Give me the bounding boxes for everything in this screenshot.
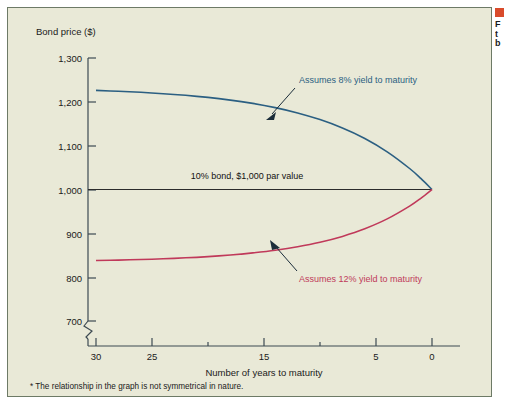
yield-12-annotation-arrow — [270, 240, 297, 271]
x-tick-label-15: 15 — [259, 351, 270, 362]
footnote-text: * The relationship in the graph is not s… — [30, 382, 243, 391]
y-tick-label-700: 700 — [66, 316, 82, 327]
y-tick-label-1200: 1,200 — [58, 97, 82, 108]
bond-price-chart: Bond price ($) 1,300 1,200 1,100 1,000 9… — [8, 8, 490, 395]
x-tick-label-25: 25 — [147, 351, 158, 362]
y-tick-label-900: 900 — [66, 229, 82, 240]
y-tick-label-1000: 1,000 — [58, 185, 82, 196]
x-axis-title: Number of years to maturity — [205, 367, 322, 378]
y-tick-label-1100: 1,100 — [58, 141, 82, 152]
yield-8-annotation-arrow — [266, 88, 295, 120]
margin-note: F t b — [495, 8, 515, 49]
margin-note-line-1: F — [495, 20, 515, 30]
par-value-label: 10% bond, $1,000 par value — [191, 171, 304, 181]
y-axis-break-symbol — [84, 321, 92, 339]
x-tick-label-0: 0 — [429, 351, 434, 362]
margin-marker-icon — [495, 8, 504, 17]
y-tick-label-800: 800 — [66, 273, 82, 284]
x-tick-label-30: 30 — [91, 351, 102, 362]
yield-8-annotation-label: Assumes 8% yield to maturity — [299, 75, 418, 85]
yield-12-annotation-label: Assumes 12% yield to maturity — [299, 274, 423, 284]
figure-panel: Bond price ($) 1,300 1,200 1,100 1,000 9… — [7, 7, 492, 397]
x-tick-group — [96, 338, 432, 346]
y-axis-title: Bond price ($) — [36, 26, 96, 37]
yield-12-percent-curve — [96, 190, 432, 261]
margin-note-line-3: b — [495, 39, 515, 49]
x-tick-label-5: 5 — [373, 351, 378, 362]
y-tick-label-1300: 1,300 — [58, 53, 82, 64]
